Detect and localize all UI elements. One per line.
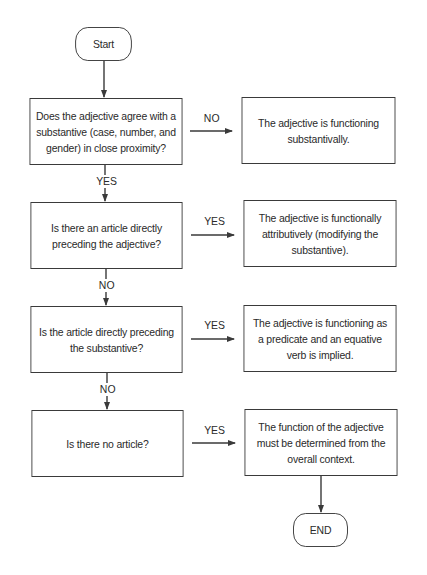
question-2-text: Is there an article directly preceding t… xyxy=(31,220,181,252)
start-label: Start xyxy=(88,36,120,52)
question-3-text: Is the article directly preceding the su… xyxy=(31,324,181,356)
result-1-text: The adjective is functioning substantiva… xyxy=(242,115,394,147)
question-4-text: Is there no article? xyxy=(61,436,154,452)
question-1-box: Does the adjective agree with a substant… xyxy=(30,98,183,165)
start-terminal: Start xyxy=(75,27,132,61)
edge-label-q1-yes: YES xyxy=(96,174,117,188)
edge-label-q1-no: NO xyxy=(204,111,220,125)
result-4-box: The function of the adjective must be de… xyxy=(245,409,398,476)
connector-lines xyxy=(0,0,427,575)
question-4-box: Is there no article? xyxy=(31,410,183,477)
question-2-box: Is there an article directly preceding t… xyxy=(30,202,182,269)
edge-label-q2-yes: YES xyxy=(204,214,225,228)
result-3-text: The adjective is functioning as a predic… xyxy=(244,315,395,363)
edge-label-q4-yes: YES xyxy=(204,423,225,437)
question-1-text: Does the adjective agree with a substant… xyxy=(30,108,181,156)
question-3-box: Is the article directly preceding the su… xyxy=(30,306,182,373)
edge-label-q2-no: NO xyxy=(99,278,115,292)
end-terminal: END xyxy=(293,513,348,547)
result-4-text: The function of the adjective must be de… xyxy=(245,419,396,467)
result-2-box: The adjective is functionally attributiv… xyxy=(244,200,397,267)
edge-label-q3-no: NO xyxy=(100,382,116,396)
result-1-box: The adjective is functioning substantiva… xyxy=(242,97,396,164)
end-label: END xyxy=(304,522,336,538)
edge-label-q3-yes: YES xyxy=(204,318,225,332)
result-3-box: The adjective is functioning as a predic… xyxy=(244,305,397,372)
result-2-text: The adjective is functionally attributiv… xyxy=(244,210,395,258)
